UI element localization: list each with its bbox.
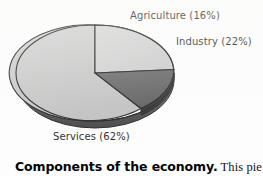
pie-chart-figure: Agriculture (16%) Industry (22%) Service…	[0, 0, 263, 152]
pie-label-industry: Industry (22%)	[176, 36, 252, 48]
caption-title: Components of the economy.	[15, 159, 218, 174]
figure-caption: Components of the economy. This pie char…	[15, 157, 263, 176]
pie-chart-graphic	[0, 0, 263, 152]
pie-slice-agriculture	[95, 25, 174, 73]
pie-label-services: Services (62%)	[53, 131, 130, 143]
caption-body: This pie chart	[218, 160, 263, 174]
pie-label-agriculture: Agriculture (16%)	[130, 10, 220, 22]
